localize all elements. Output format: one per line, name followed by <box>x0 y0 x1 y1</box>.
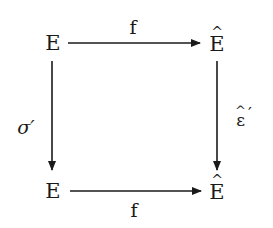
arrow-right-label: ^ ε ′ <box>236 112 252 129</box>
prime-symbol: ′ <box>248 103 252 123</box>
node-bottom-left-label: E <box>45 179 60 203</box>
arrow-top-label: f <box>129 18 136 37</box>
node-bottom-right: ^ E <box>209 182 224 203</box>
hat-accent: ^ <box>235 104 246 117</box>
node-top-right: ^ E <box>209 34 224 55</box>
arrow-left-label: σ′ <box>17 118 34 137</box>
arrow-bottom-label: f <box>130 201 137 220</box>
hat-accent: ^ <box>211 173 223 187</box>
node-bottom-left: E <box>45 181 60 202</box>
commutative-diagram: E ^ E E ^ E f f σ′ ^ ε ′ <box>0 0 273 228</box>
hat-accent: ^ <box>211 25 223 39</box>
node-top-left: E <box>45 33 60 54</box>
node-top-left-label: E <box>45 31 60 55</box>
